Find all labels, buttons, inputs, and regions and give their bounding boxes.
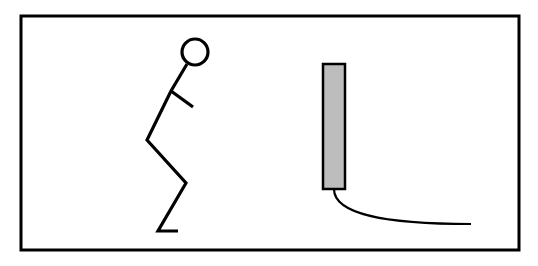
figure-arm (171, 91, 193, 107)
diagram-canvas (0, 0, 538, 266)
frame-border (21, 16, 519, 250)
figure-body (147, 64, 187, 231)
stick-figure (147, 39, 208, 231)
diagram-svg (0, 0, 538, 266)
device (323, 64, 471, 224)
device-cable (334, 189, 471, 224)
head-icon (182, 39, 208, 65)
device-column (323, 64, 345, 189)
